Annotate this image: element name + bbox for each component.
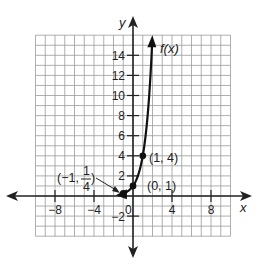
x-tick-label: 4 bbox=[169, 203, 176, 217]
y-tick-label: 6 bbox=[118, 129, 125, 143]
curve-path bbox=[121, 46, 152, 194]
fraction-denominator: 4 bbox=[83, 180, 90, 194]
curve-end-arrow-icon bbox=[147, 35, 156, 47]
exponential-graph: −8−4481412108642−2 x y 0 f(x) (1, 4) (0,… bbox=[0, 0, 259, 268]
y-tick-label: 8 bbox=[118, 109, 125, 123]
point-label-0-1: (0, 1) bbox=[147, 179, 176, 193]
y-tick-label: 4 bbox=[118, 149, 125, 163]
label-prefix: (−1, bbox=[57, 171, 79, 185]
x-tick-label: −4 bbox=[87, 203, 101, 217]
y-tick-label: −2 bbox=[111, 210, 125, 224]
point-label-neg1-quarter: (−1, 1 4 ) bbox=[57, 164, 120, 194]
label-suffix: ) bbox=[91, 171, 95, 185]
data-point bbox=[139, 152, 146, 159]
y-tick-label: 12 bbox=[112, 69, 126, 83]
origin-label: 0 bbox=[125, 203, 132, 217]
data-point bbox=[120, 190, 127, 197]
y-axis-label: y bbox=[118, 15, 127, 30]
y-tick-label: 2 bbox=[118, 169, 125, 183]
x-axis-label: x bbox=[239, 200, 247, 215]
point-label-1-4: (1, 4) bbox=[149, 151, 178, 165]
x-tick-label: −8 bbox=[48, 203, 62, 217]
data-point bbox=[130, 183, 137, 190]
fraction-numerator: 1 bbox=[83, 164, 90, 178]
x-tick-label: 8 bbox=[208, 203, 215, 217]
pointer-line bbox=[96, 178, 116, 190]
y-tick-label: 14 bbox=[112, 49, 126, 63]
y-tick-label: 10 bbox=[112, 89, 126, 103]
axes bbox=[6, 16, 252, 258]
function-label: f(x) bbox=[160, 41, 179, 56]
